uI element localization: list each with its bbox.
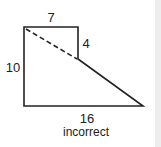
caption: incorrect <box>63 125 110 139</box>
dashed-diagonal <box>26 29 77 59</box>
label-left: 10 <box>6 60 20 75</box>
label-top: 7 <box>47 10 54 25</box>
trapezoid-diagram: 7 4 10 16 incorrect <box>0 0 161 147</box>
label-bottom: 16 <box>80 111 94 126</box>
label-right-short: 4 <box>82 36 89 51</box>
